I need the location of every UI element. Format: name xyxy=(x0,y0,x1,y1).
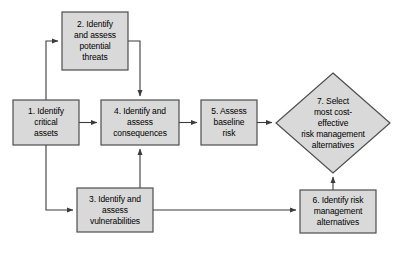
flowchart-graphics xyxy=(0,0,401,254)
edge-node2-to-node4 xyxy=(128,41,140,96)
node-shape-node6[interactable] xyxy=(300,190,376,233)
edge-node1-to-node2 xyxy=(46,41,58,100)
node-shape-group xyxy=(13,12,390,233)
edge-node1-to-node3 xyxy=(46,145,73,210)
node-shape-node7[interactable] xyxy=(276,73,390,173)
node-shape-node3[interactable] xyxy=(77,188,153,232)
node-shape-node5[interactable] xyxy=(201,100,257,145)
node-shape-node2[interactable] xyxy=(62,12,128,70)
node-shape-node4[interactable] xyxy=(101,100,179,145)
flowchart-canvas: 1. Identify critical assets 2. Identify … xyxy=(0,0,401,254)
node-shape-node1[interactable] xyxy=(13,100,79,145)
